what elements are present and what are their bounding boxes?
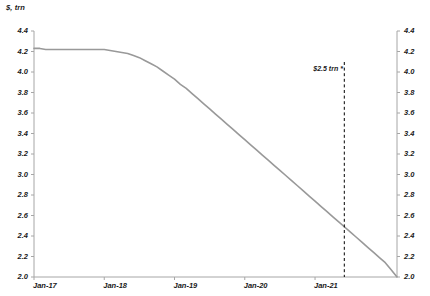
y-axis-right-tick-label: 3.8 — [404, 89, 428, 97]
y-axis-right-tick-label: 3.6 — [404, 109, 428, 117]
y-axis-right-tick-label: 3.2 — [404, 150, 428, 158]
x-axis-tick-label: Jan-18 — [103, 282, 127, 290]
y-axis-left-tick-label: 3.2 — [4, 150, 28, 158]
y-axis-right-tick-label: 3.4 — [404, 130, 428, 138]
x-axis-tick-label: Jan-21 — [314, 282, 338, 290]
x-axis-tick-label: Jan-19 — [174, 282, 198, 290]
y-axis-left-tick-label: 4.0 — [4, 68, 28, 76]
y-axis-left-tick-label: 3.0 — [4, 171, 28, 179]
y-axis-left-tick-label: 2.4 — [4, 232, 28, 240]
y-axis-left-tick-label: 2.0 — [4, 273, 28, 281]
y-axis-left-tick-label: 4.2 — [4, 48, 28, 56]
chart-figure: $, trn 4.44.24.03.83.63.43.23.02.82.62.4… — [0, 0, 430, 296]
y-axis-right-tick-label: 4.4 — [404, 27, 428, 35]
annotation-label: $2.5 trn * — [313, 65, 343, 72]
y-axis-right-tick-label: 2.0 — [404, 273, 428, 281]
x-axis-tick-label: Jan-20 — [244, 282, 268, 290]
y-axis-left-tick-label: 4.4 — [4, 27, 28, 35]
y-axis-right-tick-label: 2.8 — [404, 191, 428, 199]
y-axis-right-tick-label: 4.0 — [404, 68, 428, 76]
y-axis-right-tick-label: 3.0 — [404, 171, 428, 179]
plot-area — [0, 0, 430, 296]
y-axis-left-tick-label: 3.4 — [4, 130, 28, 138]
y-axis-left-tick-label: 3.8 — [4, 89, 28, 97]
y-axis-right-tick-label: 2.6 — [404, 212, 428, 220]
y-axis-right-tick-label: 4.2 — [404, 48, 428, 56]
data-series-line — [34, 48, 397, 277]
y-axis-left-tick-label: 2.2 — [4, 253, 28, 261]
x-axis-tick-label: Jan-17 — [33, 282, 57, 290]
y-axis-right-tick-label: 2.4 — [404, 232, 428, 240]
y-axis-right-tick-label: 2.2 — [404, 253, 428, 261]
y-axis-left-tick-label: 3.6 — [4, 109, 28, 117]
y-axis-left-tick-label: 2.6 — [4, 212, 28, 220]
y-axis-left-tick-label: 2.8 — [4, 191, 28, 199]
